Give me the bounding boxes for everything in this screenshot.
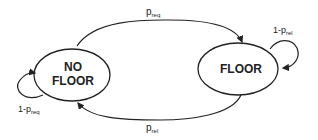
self-loop-arrow-no-floor [18, 73, 43, 98]
state-floor-label: FLOOR [220, 62, 262, 76]
state-floor: FLOOR [198, 43, 278, 95]
self-loop-arrow-floor [270, 41, 298, 68]
transition-label-req: preq [146, 6, 160, 18]
transition-arrow-rel [78, 95, 241, 120]
state-diagram: NO FLOOR FLOOR preq prel 1-preq 1-prel [0, 0, 318, 140]
self-loop-label-no-floor: 1-preq [18, 104, 40, 115]
transition-arrow-req [77, 20, 242, 46]
transition-label-rel: prel [146, 122, 158, 134]
state-no-floor-label-line1: NO [64, 60, 82, 74]
state-no-floor: NO FLOOR [34, 49, 110, 101]
self-loop-label-floor: 1-prel [273, 25, 293, 36]
state-no-floor-label-line2: FLOOR [52, 74, 94, 88]
